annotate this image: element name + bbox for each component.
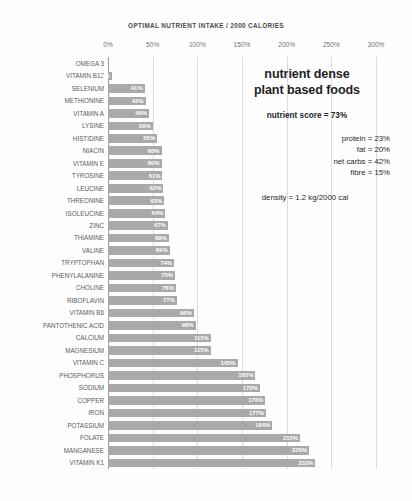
chart-row: TYROSINE61% — [108, 169, 376, 181]
bar — [108, 359, 238, 368]
category-label: METHIONINE — [64, 95, 104, 106]
bar-value-label: 177% — [249, 409, 266, 418]
bar-value-label: 115% — [194, 346, 211, 355]
x-tick-label: 150% — [234, 41, 251, 48]
bar-value-label: 46% — [135, 109, 149, 118]
bar-value-label: 225% — [292, 446, 309, 455]
chart-row: PHOSPHORUS165% — [108, 369, 376, 381]
chart-row: PHENYLALANINE75% — [108, 269, 376, 281]
category-label: SODIUM — [79, 382, 104, 393]
category-label: RIBOFLAVIN — [67, 295, 104, 306]
chart-row: SODIUM170% — [108, 382, 376, 394]
x-tick-label: 100% — [189, 41, 206, 48]
category-label: TYROSINE — [72, 170, 104, 181]
chart-row: VITAMIN B124% — [108, 69, 376, 81]
category-label: ISOLEUCINE — [66, 208, 104, 219]
category-label: MANGANESE — [64, 445, 104, 456]
bar-value-label: 74% — [160, 259, 174, 268]
bar — [108, 446, 309, 455]
category-label: HISTIDINE — [73, 133, 104, 144]
x-tick-label: 50% — [146, 41, 159, 48]
chart-row: METHIONINE42% — [108, 94, 376, 106]
bar-value-label: 76% — [162, 284, 176, 293]
chart-row: THIAMINE68% — [108, 232, 376, 244]
gridline — [376, 57, 377, 469]
chart-row: ISOLEUCINE64% — [108, 207, 376, 219]
chart-row: HISTIDINE55% — [108, 132, 376, 144]
chart-row: THREONINE63% — [108, 194, 376, 206]
bar-value-label: 41% — [131, 84, 145, 93]
bar-value-label: 68% — [155, 234, 169, 243]
bar-value-label: 77% — [163, 296, 177, 305]
bar-value-label: 4% — [101, 72, 112, 81]
bar — [108, 434, 300, 443]
chart-row: VITAMIN C145% — [108, 357, 376, 369]
chart-row: PANTOTHENIC ACID98% — [108, 319, 376, 331]
bar-value-label: 75% — [161, 271, 175, 280]
category-label: PHOSPHORUS — [59, 370, 104, 381]
category-label: TRYPTOPHAN — [61, 257, 104, 268]
category-label: POTASSIUM — [67, 420, 104, 431]
bar-value-label: 69% — [156, 246, 170, 255]
chart-row: ZINC67% — [108, 219, 376, 231]
nutrient-bar-chart: OPTIMAL NUTRIENT INTAKE / 2000 CALORIES … — [0, 0, 412, 501]
bar-value-label: 176% — [248, 396, 265, 405]
category-label: NIACIN — [83, 145, 104, 156]
chart-row: OMEGA 3 — [108, 57, 376, 69]
bar-value-label: 145% — [220, 359, 237, 368]
category-label: VITAMIN B6 — [69, 307, 104, 318]
category-label: SELENIUM — [72, 83, 104, 94]
x-axis-tick-labels: 0%50%100%150%200%250%300% — [0, 41, 412, 53]
plot-area: OMEGA 3VITAMIN B124%SELENIUM41%METHIONIN… — [108, 57, 376, 469]
x-tick-label: 300% — [368, 41, 385, 48]
chart-row: LYSINE50% — [108, 119, 376, 131]
chart-row: VITAMIN E60% — [108, 157, 376, 169]
chart-row: MANGANESE225% — [108, 444, 376, 456]
bar-value-label: 215% — [283, 434, 300, 443]
category-label: VITAMIN E — [73, 158, 104, 169]
bar-value-label: 63% — [150, 197, 164, 206]
bar — [108, 459, 315, 468]
bar — [108, 371, 255, 380]
chart-row: COPPER176% — [108, 394, 376, 406]
chart-row: CHOLINE76% — [108, 282, 376, 294]
chart-title: OPTIMAL NUTRIENT INTAKE / 2000 CALORIES — [0, 22, 412, 29]
bar-value-label: 170% — [243, 384, 260, 393]
chart-row: MAGNESIUM115% — [108, 344, 376, 356]
bar — [108, 409, 266, 418]
category-label: THIAMINE — [74, 232, 104, 243]
category-label: CALCIUM — [76, 332, 104, 343]
chart-row: SELENIUM41% — [108, 82, 376, 94]
bar-value-label: 98% — [182, 321, 196, 330]
chart-row: VITAMIN K1232% — [108, 457, 376, 469]
x-tick-label: 250% — [323, 41, 340, 48]
category-label: VITAMIN A — [73, 108, 104, 119]
category-label: VALINE — [82, 245, 104, 256]
bar-value-label: 232% — [298, 459, 315, 468]
category-label: FOLATE — [80, 432, 104, 443]
category-label: VITAMIN K1 — [69, 457, 104, 468]
chart-row: NIACIN60% — [108, 144, 376, 156]
x-tick-label: 200% — [278, 41, 295, 48]
bar-value-label: 96% — [180, 309, 194, 318]
category-label: COPPER — [77, 395, 104, 406]
bar-value-label: 55% — [143, 134, 157, 143]
category-label: PANTOTHENIC ACID — [43, 320, 104, 331]
bar — [108, 396, 265, 405]
chart-row: POTASSIUM184% — [108, 419, 376, 431]
category-label: ZINC — [89, 220, 104, 231]
bar-value-label: 67% — [154, 221, 168, 230]
bar-value-label: 184% — [255, 421, 272, 430]
bar — [108, 384, 260, 393]
chart-row: VITAMIN A46% — [108, 107, 376, 119]
chart-row: FOLATE215% — [108, 432, 376, 444]
chart-row: RIBOFLAVIN77% — [108, 294, 376, 306]
chart-row: TRYPTOPHAN74% — [108, 257, 376, 269]
chart-row: VITAMIN B696% — [108, 307, 376, 319]
category-label: CHOLINE — [76, 282, 104, 293]
chart-row: IRON177% — [108, 407, 376, 419]
category-label: MAGNESIUM — [65, 345, 104, 356]
bar-value-label: 50% — [139, 122, 153, 131]
category-label: VITAMIN B12 — [66, 70, 104, 81]
category-label: PHENYLALANINE — [52, 270, 104, 281]
